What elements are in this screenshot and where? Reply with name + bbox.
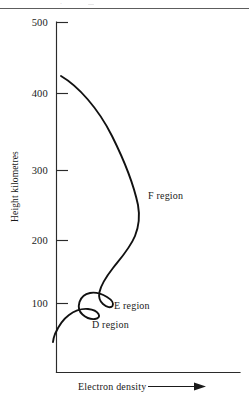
y-tick-label-500: 500 [8,17,48,28]
x-axis-arrow-head [194,383,206,391]
annotation-d-region: D region [92,319,129,330]
annotation-e-region: E region [114,300,150,311]
y-tick-label-100: 100 [8,298,48,309]
figure-root: · — 500 400 300 200 100 F region E regio… [0,0,249,406]
annotation-f-region: F region [148,190,183,201]
y-tick-label-400: 400 [8,88,48,99]
x-axis-title: Electron density [78,381,146,392]
y-axis-title: Height kilometres [10,135,21,239]
chart-plot-area [0,0,249,406]
